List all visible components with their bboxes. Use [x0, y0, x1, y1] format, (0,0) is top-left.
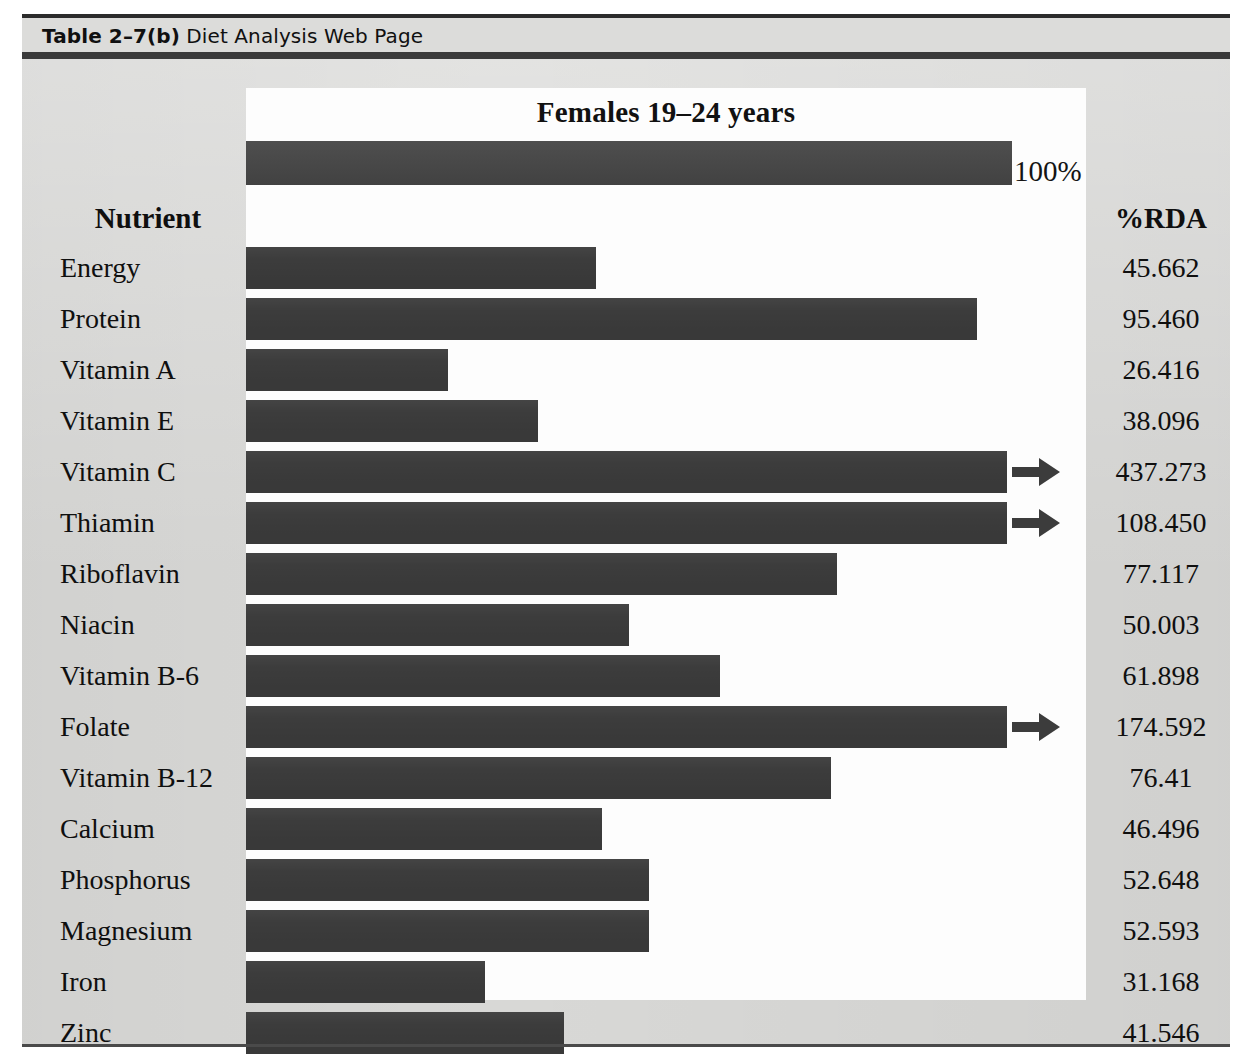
nutrient-label: Zinc: [60, 1012, 246, 1054]
table-row: Vitamin B-661.898: [0, 651, 1248, 702]
column-header-nutrient: Nutrient: [56, 202, 240, 235]
bar-track: [246, 345, 1086, 396]
bar-track: [246, 1008, 1086, 1059]
nutrient-label: Vitamin E: [60, 400, 246, 442]
nutrient-label: Phosphorus: [60, 859, 246, 901]
rda-value: 45.662: [1092, 247, 1230, 289]
rda-value: 95.460: [1092, 298, 1230, 340]
bar-track: [246, 651, 1086, 702]
table-row: Energy45.662: [0, 243, 1248, 294]
nutrient-label: Calcium: [60, 808, 246, 850]
nutrient-label: Magnesium: [60, 910, 246, 952]
rda-bar: [246, 859, 649, 901]
rda-value: 52.593: [1092, 910, 1230, 952]
table-row: Thiamin108.450: [0, 498, 1248, 549]
chart-title: Females 19–24 years: [246, 96, 1086, 129]
rda-bar: [246, 655, 720, 697]
rda-value: 46.496: [1092, 808, 1230, 850]
nutrient-label: Iron: [60, 961, 246, 1003]
table-row: Niacin50.003: [0, 600, 1248, 651]
bar-track: [246, 906, 1086, 957]
bar-track: [246, 804, 1086, 855]
rda-value: 174.592: [1092, 706, 1230, 748]
rda-bar: [246, 961, 485, 1003]
table-row: Calcium46.496: [0, 804, 1248, 855]
nutrient-label: Niacin: [60, 604, 246, 646]
rda-bar: [246, 808, 602, 850]
caption-rule-bottom: [22, 52, 1230, 59]
table-row: Phosphorus52.648: [0, 855, 1248, 906]
rda-value: 31.168: [1092, 961, 1230, 1003]
nutrient-label: Folate: [60, 706, 246, 748]
nutrient-rows: Energy45.662Protein95.460Vitamin A26.416…: [0, 243, 1248, 1059]
bar-track: [246, 957, 1086, 1008]
nutrient-label: Vitamin C: [60, 451, 246, 493]
bar-track: [246, 498, 1086, 549]
rda-value: 50.003: [1092, 604, 1230, 646]
nutrient-label: Vitamin B-12: [60, 757, 246, 799]
figure-rule-bottom: [22, 1044, 1230, 1047]
column-header-rda: %RDA: [1092, 202, 1230, 235]
nutrient-label: Energy: [60, 247, 246, 289]
overflow-arrow-icon: [1012, 509, 1060, 537]
table-row: Riboflavin77.117: [0, 549, 1248, 600]
table-caption: Table 2–7(b) Diet Analysis Web Page: [42, 22, 423, 50]
bar-track: [246, 753, 1086, 804]
bar-track: [246, 600, 1086, 651]
rda-bar: [246, 451, 1007, 493]
table-row: Vitamin E38.096: [0, 396, 1248, 447]
bar-track: [246, 447, 1086, 498]
bar-track: [246, 294, 1086, 345]
bar-track: [246, 396, 1086, 447]
rda-value: 52.648: [1092, 859, 1230, 901]
rda-bar: [246, 349, 448, 391]
table-row: Iron31.168: [0, 957, 1248, 1008]
table-row: Vitamin C437.273: [0, 447, 1248, 498]
table-row: Vitamin B-1276.41: [0, 753, 1248, 804]
table-row: Zinc41.546: [0, 1008, 1248, 1059]
rda-bar: [246, 400, 538, 442]
table-row: Folate174.592: [0, 702, 1248, 753]
nutrient-label: Thiamin: [60, 502, 246, 544]
rda-bar: [246, 910, 649, 952]
caption-number: Table 2–7(b): [42, 24, 180, 48]
rda-bar: [246, 247, 596, 289]
diet-analysis-figure: Table 2–7(b) Diet Analysis Web Page Fema…: [0, 0, 1248, 1064]
rda-bar: [246, 502, 1007, 544]
rda-value: 61.898: [1092, 655, 1230, 697]
rda-value: 108.450: [1092, 502, 1230, 544]
nutrient-label: Riboflavin: [60, 553, 246, 595]
bar-track: [246, 549, 1086, 600]
rda-value: 41.546: [1092, 1012, 1230, 1054]
rda-bar: [246, 298, 977, 340]
rda-value: 77.117: [1092, 553, 1230, 595]
table-row: Protein95.460: [0, 294, 1248, 345]
rda-value: 437.273: [1092, 451, 1230, 493]
rda-bar: [246, 757, 831, 799]
rda-bar: [246, 706, 1007, 748]
caption-title: Diet Analysis Web Page: [186, 24, 423, 48]
rda-value: 38.096: [1092, 400, 1230, 442]
overflow-arrow-icon: [1012, 458, 1060, 486]
bar-track: [246, 702, 1086, 753]
rda-bar: [246, 553, 837, 595]
bar-track: [246, 855, 1086, 906]
rda-value: 26.416: [1092, 349, 1230, 391]
reference-bar-100: [246, 141, 1012, 185]
rda-bar: [246, 1012, 564, 1054]
rda-value: 76.41: [1092, 757, 1230, 799]
rda-bar: [246, 604, 629, 646]
nutrient-label: Protein: [60, 298, 246, 340]
bar-track: [246, 243, 1086, 294]
table-row: Magnesium52.593: [0, 906, 1248, 957]
overflow-arrow-icon: [1012, 713, 1060, 741]
table-row: Vitamin A26.416: [0, 345, 1248, 396]
nutrient-label: Vitamin B-6: [60, 655, 246, 697]
reference-bar-label: 100%: [1014, 157, 1082, 186]
nutrient-label: Vitamin A: [60, 349, 246, 391]
